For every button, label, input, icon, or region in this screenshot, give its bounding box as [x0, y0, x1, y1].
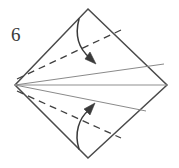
step-number-label: 6 [11, 25, 21, 45]
diagram-canvas [0, 0, 179, 168]
paper-outline [15, 9, 167, 158]
origami-diagram-figure: 6 [0, 0, 179, 168]
